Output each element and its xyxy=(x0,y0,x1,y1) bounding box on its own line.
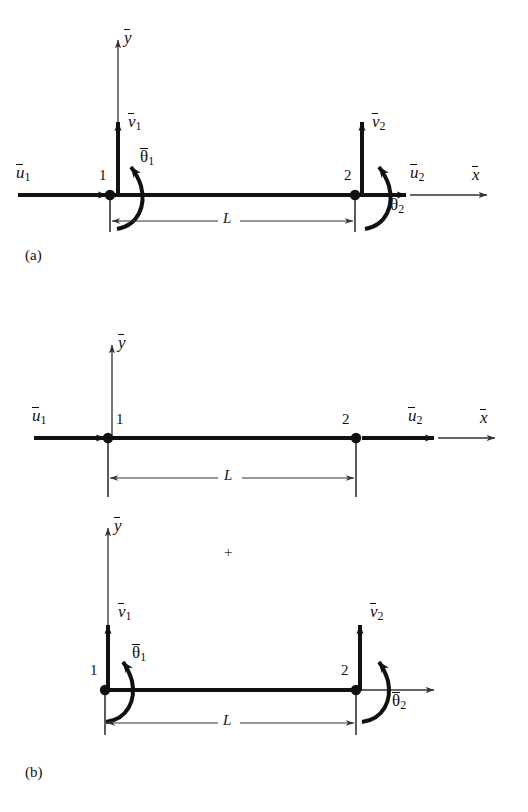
panel-a-node-1-label: 1 xyxy=(99,168,107,183)
panel-a-u2-label: u2 xyxy=(410,163,424,184)
panel-b-bending-v1-label: v1 xyxy=(118,602,132,623)
panel-a-node-2-label: 2 xyxy=(344,168,352,183)
panel-b-axial-u2-label: u2 xyxy=(408,406,422,427)
panel-a-theta1-arc xyxy=(117,167,143,229)
diagram-canvas xyxy=(0,0,528,812)
superposition-plus-operator: + xyxy=(224,545,232,560)
panel-b-bending-v2-label: v2 xyxy=(370,602,384,623)
panel-a-caption: (a) xyxy=(25,248,42,263)
panel-a-y-axis-label: y xyxy=(124,28,132,46)
panel-b-axial-node-2-dot xyxy=(351,433,361,443)
panel-b-axial-node-2-label: 2 xyxy=(342,412,350,427)
panel-a-x-axis-label: x xyxy=(472,165,480,183)
panel-b-axial-x-axis-label: x xyxy=(480,408,488,426)
panel-a-length-label: L xyxy=(223,211,231,226)
panel-a-theta2-arc xyxy=(365,167,391,229)
panel-b-axial-u1-label: u1 xyxy=(32,406,46,427)
panel-b-bending-y-axis-label: y xyxy=(114,516,122,534)
panel-b-bending-theta2-label: θ2 xyxy=(392,692,406,712)
panel-b-caption: (b) xyxy=(25,765,43,780)
panel-b-axial-node-1-label: 1 xyxy=(116,412,124,427)
panel-b-bending-node-1-label: 1 xyxy=(90,663,98,678)
panel-b-axial-y-axis-label: y xyxy=(118,333,126,351)
panel-b-bending-node-2-label: 2 xyxy=(341,663,349,678)
panel-a-graphics xyxy=(18,40,487,232)
panel-b-bending-theta2-arc xyxy=(362,662,389,722)
panel-a-v2-label: v2 xyxy=(372,112,386,133)
panel-a-u1-label: u1 xyxy=(16,163,30,184)
panel-a-theta2-label: θ2 xyxy=(390,196,404,216)
panel-b-bending-length-label: L xyxy=(223,713,231,728)
panel-b-axial-length-label: L xyxy=(224,468,232,483)
panel-b-bending-theta1-label: θ1 xyxy=(132,644,146,664)
panel-a-v1-label: v1 xyxy=(128,112,142,133)
beam-dof-figure: y x u1 u2 v1 v2 θ1 θ2 1 2 L (a) y x u1 u… xyxy=(0,0,528,812)
panel-b-bending-graphics xyxy=(100,528,434,735)
panel-b-axial-graphics xyxy=(34,345,495,497)
panel-a-theta1-label: θ1 xyxy=(140,148,154,168)
